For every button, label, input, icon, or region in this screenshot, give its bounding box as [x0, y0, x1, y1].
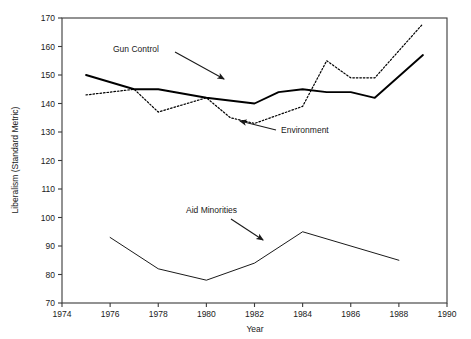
- annotation-label-environment: Environment: [281, 125, 329, 135]
- y-tick-label: 70: [46, 298, 56, 308]
- annotation-label-gun-control: Gun Control: [113, 44, 159, 54]
- y-tick-label: 110: [41, 184, 55, 194]
- x-tick-label: 1986: [341, 309, 360, 319]
- series-line-gun-control: [86, 55, 423, 103]
- annotation-arrow-gun-control: [175, 52, 224, 79]
- y-axis-ticks: 708090100110120130140150160170: [41, 13, 62, 308]
- y-tick-label: 100: [41, 213, 55, 223]
- annotation-layer: Gun ControlEnvironmentAid Minorities: [113, 44, 329, 240]
- y-axis-title: Liberalism (Standard Metric): [10, 106, 20, 213]
- x-tick-label: 1990: [438, 309, 457, 319]
- chart-container: 708090100110120130140150160170 197419761…: [0, 0, 471, 339]
- plot-border: [62, 18, 447, 303]
- y-tick-label: 140: [41, 99, 55, 109]
- y-tick-label: 90: [46, 241, 56, 251]
- x-tick-label: 1976: [101, 309, 120, 319]
- series-line-environment: [86, 24, 423, 124]
- plot-frame: [62, 18, 447, 303]
- x-tick-label: 1982: [245, 309, 264, 319]
- x-tick-label: 1974: [53, 309, 72, 319]
- y-tick-label: 170: [41, 13, 55, 23]
- y-tick-label: 130: [41, 127, 55, 137]
- y-tick-label: 80: [46, 270, 56, 280]
- annotation-arrow-aid-minorities: [231, 219, 263, 240]
- y-tick-label: 120: [41, 156, 55, 166]
- x-tick-label: 1984: [293, 309, 312, 319]
- y-tick-label: 160: [41, 42, 55, 52]
- annotation-arrow-environment: [240, 121, 276, 130]
- x-axis-title: Year: [246, 324, 263, 334]
- x-tick-label: 1980: [197, 309, 216, 319]
- line-chart-svg: 708090100110120130140150160170 197419761…: [0, 0, 471, 339]
- y-tick-label: 150: [41, 70, 55, 80]
- x-tick-label: 1978: [149, 309, 168, 319]
- annotation-label-aid-minorities: Aid Minorities: [186, 205, 237, 215]
- x-tick-label: 1988: [389, 309, 408, 319]
- series-layer: [86, 24, 423, 281]
- x-axis-ticks: 197419761978198019821984198619881990: [53, 303, 457, 319]
- series-line-aid-minorities: [110, 232, 399, 280]
